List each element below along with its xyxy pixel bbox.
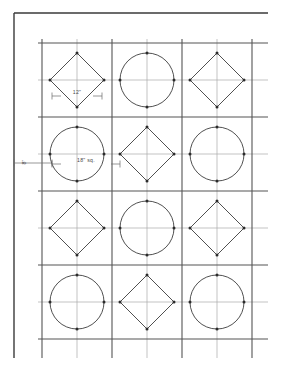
tile-vertex-dot: [189, 153, 192, 156]
tile-vertex-dot: [216, 106, 219, 109]
tile-vertex-dot: [216, 254, 219, 257]
tile-vertex-dot: [103, 153, 106, 156]
sheet-border: [14, 13, 268, 358]
tile-vertex-dot: [76, 274, 79, 277]
tile-vertex-dot: [119, 79, 122, 82]
tile-vertex-dot: [49, 301, 52, 304]
border-offset-dimension-label: 8": [21, 159, 27, 164]
tile-vertex-dot: [173, 153, 176, 156]
tile-vertex-dot: [146, 126, 149, 129]
tile-vertex-dot: [49, 153, 52, 156]
tile-vertex-dot: [76, 254, 79, 257]
tile-vertex-dot: [243, 79, 246, 82]
tile-vertex-dot: [189, 227, 192, 230]
tile-vertex-dot: [146, 180, 149, 183]
tile-vertex-dot: [76, 126, 79, 129]
tile-vertex-dot: [49, 227, 52, 230]
tile-square-dimension-label: 18" sq.: [77, 157, 95, 163]
tile-vertex-dot: [76, 200, 79, 203]
drawing-canvas: 12"18" sq.8": [0, 0, 281, 373]
tile-vertex-dot: [189, 79, 192, 82]
tile-vertex-dot: [146, 274, 149, 277]
tile-vertex-dot: [103, 227, 106, 230]
tile-vertex-dot: [243, 301, 246, 304]
tile-vertex-dot: [49, 79, 52, 82]
tile-vertex-dot: [76, 328, 79, 331]
grid-major-lines: [38, 39, 268, 358]
tile-vertex-dot: [173, 79, 176, 82]
tile-vertex-dot: [216, 274, 219, 277]
grid-minor-lines: [38, 39, 268, 358]
tile-vertex-dot: [189, 301, 192, 304]
tile-vertex-dot: [243, 153, 246, 156]
tile-vertex-dot: [119, 227, 122, 230]
tile-vertex-dot: [146, 200, 149, 203]
tile-vertex-dot: [76, 180, 79, 183]
tile-vertex-dot: [119, 301, 122, 304]
tile-vertex-dot: [76, 52, 79, 55]
tile-vertex-dot: [146, 106, 149, 109]
tile-width-dimension-label: 12": [73, 89, 82, 95]
tile-vertex-dot: [146, 328, 149, 331]
tile-vertex-dot: [216, 200, 219, 203]
tile-vertex-dot: [216, 52, 219, 55]
tile-vertex-dot: [103, 301, 106, 304]
tile-vertex-dot: [216, 328, 219, 331]
tile-vertex-dot: [216, 126, 219, 129]
tile-vertex-dot: [173, 301, 176, 304]
tile-layout-drawing: 12"18" sq.8": [0, 0, 281, 373]
tile-vertex-dot: [146, 52, 149, 55]
tile-vertex-dot: [216, 180, 219, 183]
tile-vertex-dot: [146, 254, 149, 257]
tile-vertex-dot: [76, 106, 79, 109]
tile-vertex-dot: [173, 227, 176, 230]
tile-vertex-dot: [119, 153, 122, 156]
tile-vertex-dot: [103, 79, 106, 82]
tile-vertex-dot: [243, 227, 246, 230]
